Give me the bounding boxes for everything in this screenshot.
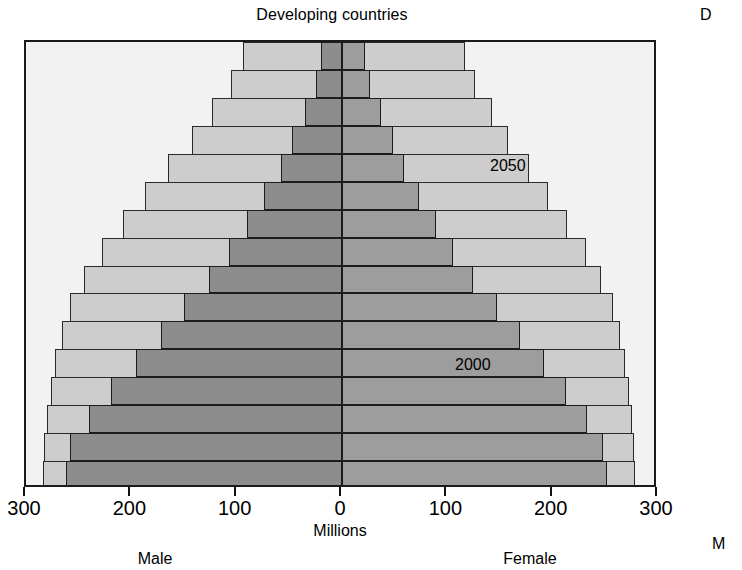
bar-2000-male-55-59 <box>281 154 342 182</box>
female-axis-label: Female <box>470 550 590 568</box>
bar-2000-female-45-49 <box>342 210 436 238</box>
bar-2000-male-35-39 <box>209 266 342 293</box>
x-tick-label-0: 300 <box>0 497 54 520</box>
bar-2000-male-25-29 <box>161 321 342 349</box>
bar-2000-female-30-34 <box>342 293 497 321</box>
x-tick-100-male <box>234 487 236 496</box>
x-tick-200-female <box>550 487 552 496</box>
bar-2000-male-30-34 <box>184 293 342 321</box>
bar-2000-male-0-4 <box>66 461 342 487</box>
bar-2000-female-75+ <box>342 42 365 70</box>
x-tick-label-2: 100 <box>205 497 265 520</box>
bar-2000-female-5-9 <box>342 433 603 461</box>
x-tick-200-male <box>128 487 130 496</box>
bar-2000-female-40-44 <box>342 238 453 266</box>
bar-2000-female-65-69 <box>342 98 381 126</box>
chart-title: Developing countries <box>0 6 664 24</box>
label-2000: 2000 <box>455 356 491 374</box>
bar-2000-female-70-74 <box>342 70 370 98</box>
bar-2000-male-50-54 <box>264 182 342 210</box>
bar-2000-male-60-64 <box>292 126 342 154</box>
x-tick-label-6: 300 <box>626 497 686 520</box>
x-tick-label-3: 0 <box>310 497 370 520</box>
bar-2000-female-0-4 <box>342 461 607 487</box>
adjacent-chart-title-fragment: D <box>700 6 722 24</box>
bar-2000-male-10-14 <box>89 405 342 433</box>
bar-2000-female-35-39 <box>342 266 473 293</box>
bar-2000-female-55-59 <box>342 154 404 182</box>
male-axis-label: Male <box>95 550 215 568</box>
x-axis-label: Millions <box>280 522 400 540</box>
bar-2000-female-20-24 <box>342 349 544 377</box>
bar-2000-female-10-14 <box>342 405 587 433</box>
x-tick-0-zero <box>339 487 341 496</box>
x-tick-300-male <box>23 487 25 496</box>
bar-2000-female-25-29 <box>342 321 520 349</box>
bar-2000-female-50-54 <box>342 182 419 210</box>
bar-2000-male-70-74 <box>316 70 342 98</box>
bar-2000-male-15-19 <box>111 377 342 405</box>
x-tick-label-5: 200 <box>521 497 581 520</box>
bar-2000-male-5-9 <box>70 433 342 461</box>
bar-2000-male-65-69 <box>305 98 342 126</box>
plot-area <box>24 40 656 487</box>
x-tick-100-female <box>444 487 446 496</box>
bar-2000-male-45-49 <box>247 210 342 238</box>
x-axis: 3002001000100200300MillionsMaleFemale <box>0 487 742 570</box>
x-tick-300-female <box>655 487 657 496</box>
bar-2000-male-75+ <box>321 42 342 70</box>
zero-axis-line <box>341 42 343 485</box>
bar-2000-male-40-44 <box>229 238 342 266</box>
bar-2000-male-20-24 <box>136 349 342 377</box>
bar-2000-female-60-64 <box>342 126 393 154</box>
x-tick-label-4: 100 <box>415 497 475 520</box>
population-pyramid-figure: Developing countries D M 300200100010020… <box>0 0 742 570</box>
x-tick-label-1: 200 <box>99 497 159 520</box>
plot-inner <box>26 42 654 485</box>
bar-2000-female-15-19 <box>342 377 566 405</box>
label-2050: 2050 <box>490 157 526 175</box>
